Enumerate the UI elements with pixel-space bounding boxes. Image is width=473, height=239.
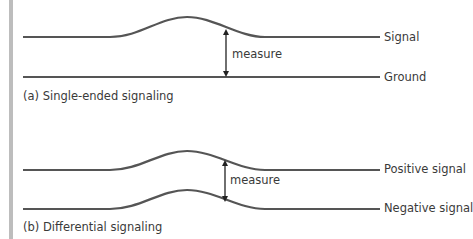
ground-label: Ground (384, 72, 426, 84)
measure-label-b: measure (230, 175, 280, 187)
caption-b: (b) Differential signaling (23, 222, 162, 234)
caption-a: (a) Single-ended signaling (23, 91, 174, 103)
positive-signal-line (23, 151, 380, 170)
negative-signal-label: Negative signal (384, 203, 473, 215)
positive-signal-label: Positive signal (384, 164, 466, 176)
measure-label-a: measure (232, 49, 282, 61)
negative-signal-line (23, 190, 380, 209)
signal-line (23, 17, 380, 37)
signal-label: Signal (384, 32, 419, 44)
